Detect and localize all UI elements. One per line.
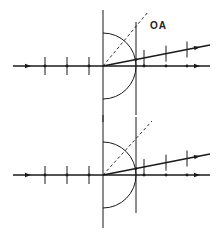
arrowhead-icon (25, 173, 31, 177)
arrowhead-icon (194, 64, 200, 68)
tick-dot (66, 174, 69, 177)
panel-upper (13, 10, 210, 122)
oa-label: OA (150, 20, 167, 31)
tick-dot (165, 65, 168, 68)
tick-dot (66, 65, 69, 68)
optics-diagram: OA (0, 0, 223, 236)
panel-lower (13, 115, 210, 228)
arrowhead-icon (194, 173, 200, 177)
intersection-dot (135, 167, 138, 170)
refracted-ray-line (103, 45, 210, 66)
arrowhead-icon (25, 64, 31, 68)
tick-dot (44, 65, 47, 68)
tick-dot (165, 174, 168, 177)
intersection-dot (135, 58, 138, 61)
tick-dot (88, 174, 91, 177)
tick-dot (88, 65, 91, 68)
tick-dot (186, 65, 189, 68)
tick-dot (44, 174, 47, 177)
tick-dot (186, 174, 189, 177)
